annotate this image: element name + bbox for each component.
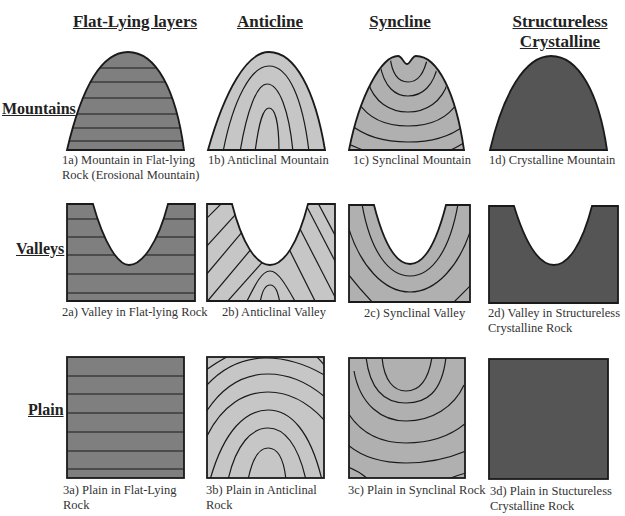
caption-1c: 1c) Synclinal Mountain [353, 153, 471, 168]
figure-3a-flat-plain [66, 356, 186, 480]
figure-3c-synclinal-plain [348, 357, 466, 481]
column-header-line2: Crystalline [500, 32, 620, 52]
caption-1d: 1d) Crystalline Mountain [489, 153, 615, 168]
figure-2d-crystalline-valley [488, 205, 620, 305]
row-header-mountains: Mountains [2, 100, 76, 118]
caption-3d: 3d) Plain in Stuctureless Crystalline Ro… [490, 484, 612, 514]
caption-line: 2c) Synclinal Valley [364, 306, 465, 321]
caption-3b: 3b) Plain in Anticlinal Rock [206, 483, 317, 513]
caption-line: 3d) Plain in Stuctureless [490, 484, 612, 499]
caption-line: 2d) Valley in Structureless [488, 306, 620, 321]
caption-line: 1c) Synclinal Mountain [353, 153, 471, 168]
caption-line: Rock [206, 498, 317, 513]
caption-2a: 2a) Valley in Flat-lying Rock [62, 305, 208, 320]
figure-1d-crystalline-mountain [489, 54, 609, 152]
column-header-anticline: Anticline [220, 12, 320, 32]
figure-1c-synclinal-mountain [348, 54, 466, 152]
figure-2a-flat-valley [66, 203, 196, 303]
caption-line: 1d) Crystalline Mountain [489, 153, 615, 168]
column-header-structureless-crystalline: Structureless Crystalline [500, 12, 620, 52]
caption-line: 3b) Plain in Anticlinal [206, 483, 317, 498]
caption-line: 3c) Plain in Synclinal Rock [348, 483, 485, 498]
caption-line: 2b) Anticlinal Valley [222, 305, 326, 320]
figure-3d-crystalline-plain [488, 358, 610, 482]
caption-line: 1b) Anticlinal Mountain [208, 153, 329, 168]
caption-line: Rock [63, 498, 177, 513]
row-header-plain: Plain [28, 401, 64, 419]
caption-3a: 3a) Plain in Flat-Lying Rock [63, 483, 177, 513]
caption-2c: 2c) Synclinal Valley [364, 306, 465, 321]
column-header-line1: Structureless [500, 12, 620, 32]
caption-1b: 1b) Anticlinal Mountain [208, 153, 329, 168]
column-header-syncline: Syncline [350, 12, 450, 32]
caption-2d: 2d) Valley in Structureless Crystalline … [488, 306, 620, 336]
figure-3b-anticlinal-plain [206, 356, 326, 480]
caption-line: 1a) Mountain in Flat-lying [62, 153, 199, 168]
caption-2b: 2b) Anticlinal Valley [222, 305, 326, 320]
caption-3c: 3c) Plain in Synclinal Rock [348, 483, 485, 498]
caption-line: Rock (Erosional Mountain) [62, 168, 199, 183]
caption-line: Crystalline Rock [490, 499, 612, 514]
figure-1b-anticlinal-mountain [207, 50, 327, 152]
figure-2c-synclinal-valley [348, 204, 472, 304]
column-header-flat-lying: Flat-Lying layers [70, 12, 200, 32]
figure-2b-anticlinal-valley [206, 203, 336, 303]
row-header-valleys: Valleys [16, 240, 64, 258]
caption-1a: 1a) Mountain in Flat-lying Rock (Erosion… [62, 153, 199, 183]
figure-1a-flat-mountain [66, 50, 186, 152]
caption-line: 2a) Valley in Flat-lying Rock [62, 305, 208, 320]
caption-line: Crystalline Rock [488, 321, 620, 336]
caption-line: 3a) Plain in Flat-Lying [63, 483, 177, 498]
